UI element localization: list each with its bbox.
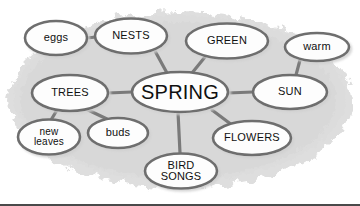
node-ellipse-flowers[interactable] xyxy=(213,121,291,155)
connector-spring-to-bird-songs xyxy=(178,112,180,153)
node-ellipse-bird-songs[interactable] xyxy=(145,154,217,189)
node-ellipse-eggs[interactable] xyxy=(25,21,87,55)
node-ellipse-trees[interactable] xyxy=(32,75,108,111)
node-ellipse-green[interactable] xyxy=(186,24,268,59)
page-bottom-edge xyxy=(0,204,360,206)
node-ellipse-warm[interactable] xyxy=(285,33,349,61)
node-ellipse-new-leaves[interactable] xyxy=(18,120,80,155)
concept-web-graphic xyxy=(0,0,360,206)
connector-trees-to-spring xyxy=(108,92,132,93)
node-ellipse-sun[interactable] xyxy=(253,75,327,109)
node-ellipse-buds[interactable] xyxy=(88,118,148,148)
node-ellipse-nests[interactable] xyxy=(95,19,167,54)
node-ellipse-spring[interactable] xyxy=(132,72,228,112)
concept-web-canvas: SPRINGeggsNESTSGREENwarmTREESSUNnew leav… xyxy=(0,0,360,206)
connector-spring-to-sun xyxy=(228,92,253,93)
